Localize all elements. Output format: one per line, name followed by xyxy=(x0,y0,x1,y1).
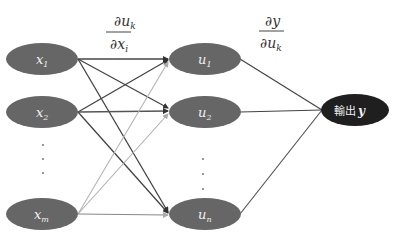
hidden-output-edges xyxy=(240,59,322,214)
partial-derivative-dy-du: ∂y ∂uk xyxy=(259,13,284,53)
svg-text:∂uk: ∂uk xyxy=(260,35,282,53)
svg-text:∂y: ∂y xyxy=(265,13,281,29)
input-ellipsis-dots xyxy=(42,144,44,174)
hidden-node-u2: u2 xyxy=(169,96,241,128)
hidden-node-u1: u1 xyxy=(169,43,241,75)
hidden-node-un: un xyxy=(169,198,241,230)
input-node-xm: xm xyxy=(6,198,78,230)
svg-text:輸出y: 輸出y xyxy=(334,104,366,118)
svg-text:∂uk: ∂uk xyxy=(114,13,136,31)
svg-text:∂xi: ∂xi xyxy=(110,36,128,54)
input-hidden-edges xyxy=(78,59,168,215)
hidden-ellipsis-dots xyxy=(202,158,204,190)
output-node-y: 輸出y xyxy=(321,94,389,126)
input-node-x2: x2 xyxy=(6,96,78,128)
input-node-x1: x1 xyxy=(6,43,78,75)
partial-derivative-du-dx: ∂uk ∂xi xyxy=(106,13,136,54)
network-diagram: ∂uk ∂xi ∂y ∂uk x1 x2 xm u1 u2 xyxy=(0,0,396,237)
